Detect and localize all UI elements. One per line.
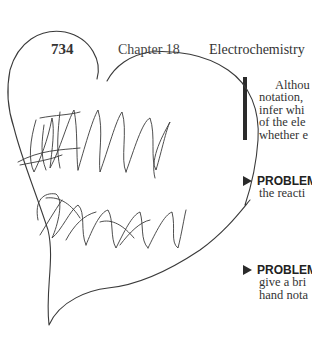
- paragraph-line: of the ele: [259, 116, 312, 128]
- problem-block: PROBLEM give a bri hand nota: [243, 264, 312, 301]
- paragraph-line: whether e: [259, 129, 312, 141]
- paragraph-line: notation,: [259, 91, 312, 103]
- chapter-title: Electrochemistry: [209, 42, 305, 58]
- textbook-page: 734 Chapter 18 Electrochemistry Althou n…: [0, 0, 312, 345]
- triangle-bullet-icon: [243, 265, 252, 275]
- heart-outline-icon: [8, 31, 258, 325]
- problem-block: PROBLEM the reacti: [243, 175, 312, 200]
- body-paragraph: Althou notation, infer whi of the ele wh…: [259, 79, 312, 141]
- page-header: 734 Chapter 18 Electrochemistry: [0, 41, 312, 61]
- triangle-bullet-icon: [243, 176, 252, 186]
- scribble-bottom-icon: [37, 194, 186, 248]
- problem-text: the reacti: [243, 187, 312, 199]
- chapter-label: Chapter 18: [118, 42, 180, 58]
- page-number: 734: [51, 41, 74, 58]
- problem-text: hand nota: [243, 289, 312, 301]
- scribble-top-icon: [18, 110, 170, 178]
- problem-text: give a bri: [243, 276, 312, 288]
- margin-bar: [243, 77, 247, 140]
